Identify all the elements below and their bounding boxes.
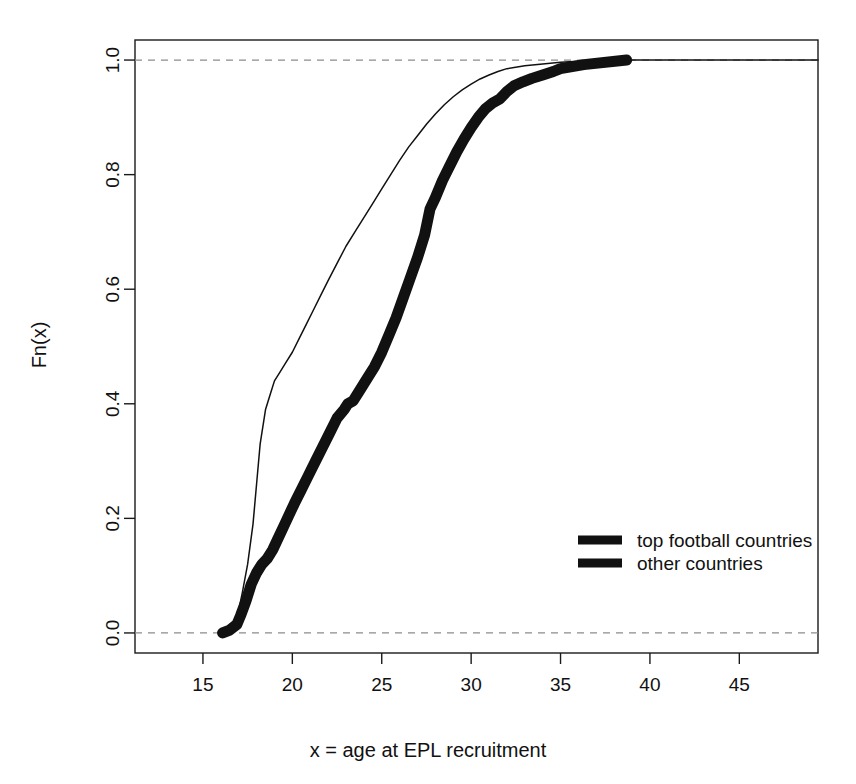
plot-canvas: 15202530354045 0.00.20.40.60.81.0 x = ag… — [0, 0, 856, 784]
legend-label: other countries — [637, 553, 763, 574]
x-tick-label: 45 — [729, 674, 750, 695]
x-tick-label: 25 — [371, 674, 392, 695]
ecdf-figure: 15202530354045 0.00.20.40.60.81.0 x = ag… — [0, 0, 856, 784]
figure-background — [0, 0, 856, 784]
y-tick-label: 0.8 — [103, 161, 124, 187]
legend-label: top football countries — [637, 530, 812, 551]
y-tick-label: 0.0 — [103, 620, 124, 646]
x-tick-label: 40 — [639, 674, 660, 695]
x-tick-label: 20 — [282, 674, 303, 695]
y-tick-label: 1.0 — [103, 47, 124, 73]
x-tick-label: 15 — [192, 674, 213, 695]
x-axis-title: x = age at EPL recruitment — [310, 739, 547, 761]
x-tick-label: 35 — [550, 674, 571, 695]
y-tick-label: 0.4 — [103, 390, 124, 417]
y-axis-title: Fn(x) — [28, 322, 50, 369]
y-tick-label: 0.2 — [103, 505, 124, 531]
x-tick-label: 30 — [461, 674, 482, 695]
y-tick-label: 0.6 — [103, 276, 124, 302]
